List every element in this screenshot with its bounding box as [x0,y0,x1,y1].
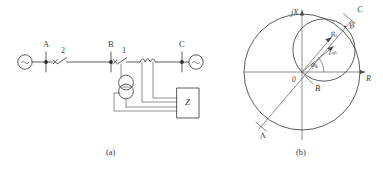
ct-circle-lower [119,84,134,99]
point-b-prime-marker [344,26,346,28]
diagram-b-group [244,10,365,140]
point-b-label: B [315,84,320,93]
terminal-b-dot [109,60,113,64]
source-left-sine [21,61,29,64]
series-reactor-coil [140,59,156,62]
relay-label: Z [185,98,190,107]
breaker-1-cross [113,60,117,64]
vector-rt-label: Rt [330,30,337,39]
caption-b: (b) [296,148,306,157]
figure-vector-canvas [0,0,383,170]
figure-container: A B C 2 1 Z (a) jX R 0 A B B' C Rt Zm φk… [0,0,383,170]
origin-label: 0 [292,76,296,84]
vt-lead-right [153,62,177,98]
point-c-label: C [356,5,364,15]
caption-a: (a) [106,148,115,157]
axis-jx-arrowhead [300,10,304,16]
axis-jx-label: jX [291,9,298,17]
angle-arc-phi [318,57,324,72]
angle-phi-label: φk [311,61,318,69]
breaker-2-blade [58,58,67,64]
terminal-b-label: B [108,40,114,49]
breaker-1-label: 1 [122,47,126,55]
diagram-a-group [18,52,203,118]
angle-phi-sub: k [315,63,318,69]
breaker-2-label: 2 [61,47,65,55]
vt-lead-left [142,62,177,102]
terminal-c-label: C [179,40,185,49]
terminal-a-dot [44,60,48,64]
terminal-a-label: A [43,40,49,49]
axis-r-label: R [366,75,371,83]
line-a-to-c [259,20,352,129]
breaker-2-cross [53,60,57,64]
breaker-1-blade [118,58,127,64]
source-right-sine [192,61,200,64]
ct-circle-upper [119,75,134,90]
